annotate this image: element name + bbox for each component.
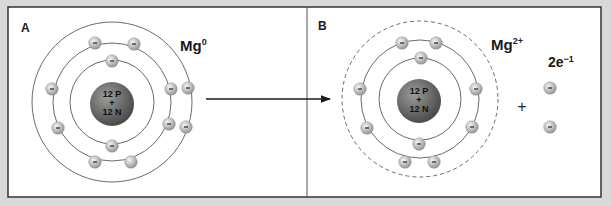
- electron: [413, 138, 426, 151]
- electron: [415, 52, 428, 65]
- ionization-diagram: A Mg0 12 P + 12 N B Mg2+ 12 P + 12: [0, 0, 611, 206]
- electron: [354, 83, 367, 96]
- electron: [163, 118, 176, 131]
- electron: [396, 37, 409, 50]
- electron: [89, 37, 102, 50]
- panel-a-label: A: [21, 21, 30, 35]
- electron: [89, 156, 102, 169]
- electron: [428, 156, 441, 169]
- electron: [544, 82, 557, 95]
- electron: [106, 140, 119, 153]
- nucleus: 12 P + 12 N: [90, 82, 134, 126]
- electron: [182, 82, 195, 95]
- svg-text:12 N: 12 N: [409, 104, 428, 114]
- electron: [470, 83, 483, 96]
- electron: [106, 55, 119, 68]
- electron: [180, 121, 193, 134]
- electron: [361, 122, 374, 135]
- electron: [46, 83, 59, 96]
- electron: [544, 121, 557, 134]
- nucleus: 12 P + 12 N: [397, 79, 441, 123]
- electron: [128, 38, 141, 51]
- electron: [399, 156, 412, 169]
- electron: [430, 37, 443, 50]
- electron: [466, 121, 479, 134]
- svg-text:12 N: 12 N: [102, 107, 121, 117]
- panel-b-label: B: [318, 19, 327, 33]
- plus-sign: +: [517, 98, 526, 115]
- electron: [165, 83, 178, 96]
- electron: [52, 122, 65, 135]
- electron: [125, 156, 138, 169]
